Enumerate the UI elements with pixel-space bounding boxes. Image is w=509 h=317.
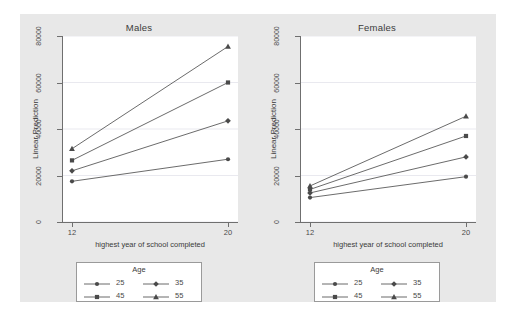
legend-entries: 25354555 <box>77 276 201 302</box>
legend-item-55[interactable]: 55 <box>380 289 421 301</box>
y-axis-title-males: Linear Prediction <box>28 36 42 222</box>
graph-region: Males 020000400006000080000 1220 Linear … <box>20 14 496 302</box>
plot-svg-females <box>300 36 476 222</box>
plot-area-males <box>62 36 238 222</box>
legend-label: 35 <box>413 278 421 287</box>
y-tick-mark <box>57 36 62 37</box>
y-tick-mark <box>295 36 300 37</box>
legend-item-55[interactable]: 55 <box>142 289 183 301</box>
y-axis-title-females: Linear Prediction <box>266 36 280 222</box>
legend-marker-diamond-icon <box>380 276 408 288</box>
figure: Males 020000400006000080000 1220 Linear … <box>0 0 509 317</box>
legend-label: 35 <box>175 278 183 287</box>
panel-females: Females 020000400006000080000 1220 Linea… <box>258 14 496 302</box>
x-tick-label: 12 <box>306 228 314 237</box>
legend-marker-circle-icon <box>321 276 349 288</box>
legend-marker-diamond-icon <box>142 276 170 288</box>
y-tick-mark <box>57 129 62 130</box>
legend-item-35[interactable]: 35 <box>142 276 183 288</box>
legend-entries: 25354555 <box>315 276 439 302</box>
y-tick-mark <box>295 222 300 223</box>
x-tick-mark <box>310 223 311 227</box>
y-axis-line-males <box>62 36 63 222</box>
y-tick-mark <box>295 129 300 130</box>
legend-item-45[interactable]: 45 <box>83 289 124 301</box>
x-axis-title-males: highest year of school completed <box>62 240 238 249</box>
legend-item-35[interactable]: 35 <box>380 276 421 288</box>
legend-label: 45 <box>354 291 362 300</box>
plot-area-females <box>300 36 476 222</box>
plot-svg-males <box>62 36 238 222</box>
x-axis-title-females: highest year of school completed <box>300 240 476 249</box>
legend-item-25[interactable]: 25 <box>321 276 362 288</box>
x-tick-mark <box>72 223 73 227</box>
y-tick-mark <box>57 176 62 177</box>
legend-label: 25 <box>116 278 124 287</box>
x-tick-label: 20 <box>462 228 470 237</box>
panel-males: Males 020000400006000080000 1220 Linear … <box>20 14 258 302</box>
legend-item-25[interactable]: 25 <box>83 276 124 288</box>
legend-item-45[interactable]: 45 <box>321 289 362 301</box>
legend-title: Age <box>315 265 439 274</box>
legend-marker-square-icon <box>321 289 349 301</box>
x-axis-line-females <box>300 222 476 223</box>
x-axis-line-males <box>62 222 238 223</box>
legend-label: 45 <box>116 291 124 300</box>
x-tick-label: 12 <box>68 228 76 237</box>
x-tick-mark <box>228 223 229 227</box>
x-tick-label: 20 <box>224 228 232 237</box>
y-tick-mark <box>295 83 300 84</box>
legend-males: Age 25354555 <box>76 262 202 302</box>
legend-title: Age <box>77 265 201 274</box>
legend-marker-triangle-icon <box>142 289 170 301</box>
y-axis-line-females <box>300 36 301 222</box>
legend-label: 25 <box>354 278 362 287</box>
legend-label: 55 <box>413 291 421 300</box>
y-tick-mark <box>295 176 300 177</box>
legend-marker-square-icon <box>83 289 111 301</box>
y-tick-mark <box>57 222 62 223</box>
y-tick-mark <box>57 83 62 84</box>
legend-females: Age 25354555 <box>314 262 440 302</box>
legend-marker-circle-icon <box>83 276 111 288</box>
legend-label: 55 <box>175 291 183 300</box>
x-tick-mark <box>466 223 467 227</box>
legend-marker-triangle-icon <box>380 289 408 301</box>
